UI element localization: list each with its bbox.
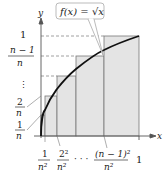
function-label: f(x) = √x: [56, 3, 104, 55]
x-tick-dots: · · ·: [74, 154, 88, 164]
y-tick-1: 1: [20, 29, 26, 40]
y-tick-1n-num: 1: [17, 120, 23, 130]
y-tick-1n-den: n: [16, 131, 22, 141]
x-tick-2-den: n²: [57, 162, 67, 172]
rectangle-2: [45, 96, 57, 136]
x-tick-n-minus-1-den: n²: [104, 162, 114, 172]
y-tick-n-minus-1-den: n: [17, 58, 23, 68]
y-tick-2-den: n: [16, 108, 22, 118]
x-tick-2-num: 2²: [59, 149, 69, 159]
rectangle-5: [104, 36, 139, 136]
y-tick-dots: ⋮: [19, 80, 28, 90]
x-tick-n-minus-1-num: (n − 1)²: [95, 149, 131, 159]
y-axis-label: y: [37, 8, 44, 18]
x-tick-labels: 1 n² 2² n² · · · (n − 1)² n² 1: [38, 136, 142, 172]
x-tick-1-num: 1: [42, 149, 48, 159]
y-tick-2-num: 2: [17, 97, 23, 107]
x-axis-label: x: [157, 131, 162, 141]
y-tick-labels: 1 n − 1 n ⋮ 2 n 1 n: [8, 29, 41, 141]
function-label-text: f(x) = √x: [59, 6, 104, 17]
rectangle-4: [76, 56, 104, 136]
rectangles: [41, 36, 139, 136]
x-tick-1: 1: [136, 154, 142, 165]
x-tick-1-den: n²: [38, 162, 48, 172]
y-tick-n-minus-1-num: n − 1: [10, 45, 35, 55]
riemann-sum-diagram: f(x) = √x y x 1 n − 1 n ⋮ 2 n 1 n 1 n² 2…: [0, 0, 167, 182]
